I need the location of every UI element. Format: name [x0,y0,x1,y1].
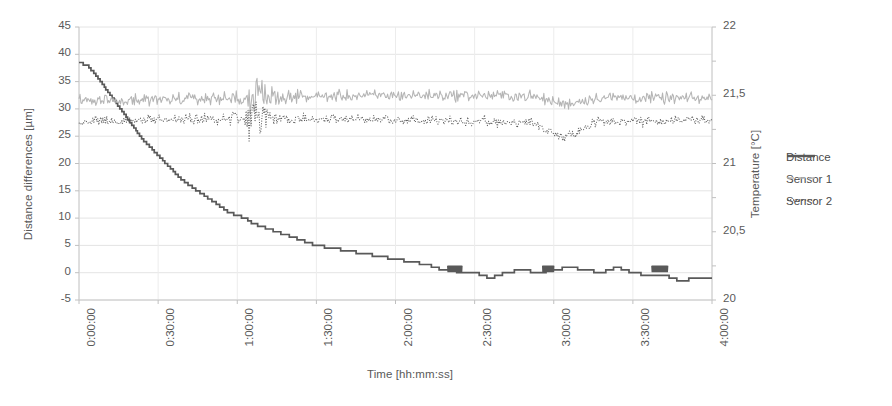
series-distance-chatter [448,266,462,273]
chart-container: Distance differences [µm] Temperature [°… [0,0,892,406]
series-distance-chatter [543,266,554,273]
series-distance-chatter [652,266,668,273]
legend-swatch-dotted-icon [786,194,816,206]
legend-swatch-dashed-icon [786,172,816,184]
legend-item-distance[interactable]: Distance [786,150,831,163]
plot-area [0,0,892,406]
legend-swatch-solid-icon [786,150,816,162]
legend-item-sensor-1[interactable]: Sensor 1 [786,172,832,185]
legend-item-sensor-2[interactable]: Sensor 2 [786,194,832,207]
